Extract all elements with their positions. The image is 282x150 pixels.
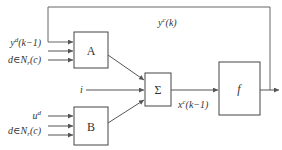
input-a-label-yd: yd(k−1)	[9, 36, 41, 49]
input-a-label-d: d∈Nr(c)	[8, 54, 42, 67]
block-b-label: B	[87, 120, 95, 134]
block-a-label: A	[87, 44, 96, 58]
sum-output-label: xc(k−1)	[177, 98, 209, 111]
feedback-label: yc(k)	[157, 16, 177, 29]
input-b-label-d: d∈Nr(c)	[8, 125, 42, 138]
b-to-sum-arrow	[108, 100, 144, 123]
input-b-label-ud: ud	[33, 109, 42, 121]
block-diagram: yc(k) yd(k−1) d∈Nr(c) A i ud d∈Nr(c) B Σ…	[0, 0, 282, 150]
input-i-label: i	[80, 84, 83, 95]
inputs-a-arrows	[48, 51, 73, 60]
inputs-b-arrows	[48, 116, 73, 135]
a-to-sum-arrow	[108, 55, 144, 80]
sum-block-label: Σ	[155, 83, 162, 97]
